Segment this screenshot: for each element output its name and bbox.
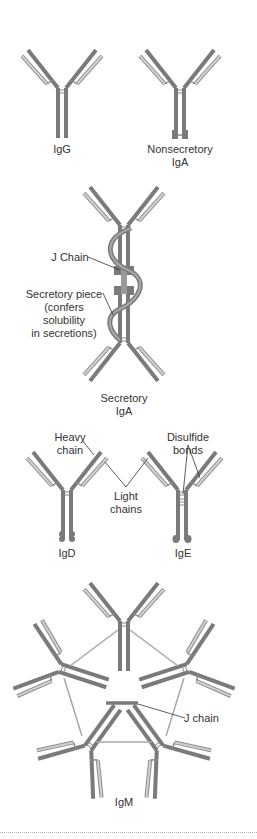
secretory-piece-annotation: Secretory piece (confers solubility in s…: [22, 288, 106, 340]
heavy-chain-line2: chain: [50, 444, 90, 457]
nonsecretory-iga-label-line2: IgA: [140, 156, 220, 169]
secretory-piece-line4: in secretions): [22, 327, 106, 340]
igd-label: IgD: [52, 547, 82, 560]
igm-j-chain-pointer: [138, 704, 185, 718]
ige-structure: [142, 452, 222, 543]
secretory-iga-label-line2: IgA: [94, 405, 154, 418]
disulfide-line1: Disulfide: [160, 431, 216, 444]
light-chains-pointer: [105, 458, 148, 487]
igm-label: IgM: [107, 796, 141, 809]
secretory-piece-line1: Secretory piece: [22, 288, 106, 301]
heavy-chain-annotation: Heavy chain: [50, 431, 90, 457]
secretory-piece-line3: solubility: [22, 314, 106, 327]
igm-j-chain-annotation: J chain: [184, 712, 228, 725]
nonsecretory-iga-label-line1: Nonsecretory: [140, 143, 220, 156]
nonsecretory-iga-label: Nonsecretory IgA: [140, 143, 220, 169]
igg-label: IgG: [47, 143, 77, 156]
nonsecretory-iga-structure: [140, 50, 220, 139]
igm-structure: [11, 583, 236, 802]
heavy-chain-line1: Heavy: [50, 431, 90, 444]
light-chains-line1: Light: [104, 490, 148, 503]
secretory-iga-label-line1: Secretory: [94, 392, 154, 405]
igg-structure: [22, 50, 102, 138]
secretory-iga-label: Secretory IgA: [94, 392, 154, 418]
disulfide-line2: bonds: [160, 444, 216, 457]
light-chains-annotation: Light chains: [104, 490, 148, 516]
bottom-divider: [0, 832, 257, 833]
igd-structure: [27, 452, 107, 542]
disulfide-bonds-annotation: Disulfide bonds: [160, 431, 216, 457]
secretory-piece-line2: (confers: [22, 301, 106, 314]
secretory-iga-structure: [84, 187, 164, 381]
ige-label: IgE: [168, 547, 198, 560]
light-chains-line2: chains: [104, 503, 148, 516]
j-chain-annotation: J Chain: [48, 251, 92, 264]
